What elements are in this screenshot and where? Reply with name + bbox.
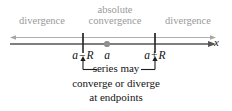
region-label-divergence-right-text: divergence bbox=[165, 15, 211, 26]
region-label-absolute-convergence-line2: convergence bbox=[76, 15, 154, 26]
callout-right-arrowhead-up-icon bbox=[152, 56, 157, 61]
caption-line-1: series may bbox=[66, 62, 166, 74]
region-label-divergence-right: divergence bbox=[154, 15, 222, 26]
center-point-dot bbox=[104, 41, 110, 47]
caption-line-3: at endpoints bbox=[0, 91, 232, 103]
axis-variable-label: x bbox=[214, 36, 219, 48]
region-label-absolute-convergence: absolute convergence bbox=[76, 4, 154, 26]
region-label-divergence-left-text: divergence bbox=[19, 15, 65, 26]
caption-line-2: converge or diverge bbox=[0, 77, 232, 89]
callout-left-arrowhead-up-icon bbox=[80, 56, 85, 61]
region-label-absolute-convergence-line1: absolute bbox=[76, 4, 154, 15]
convergence-interval-figure: divergence absolute convergence divergen… bbox=[0, 0, 232, 111]
region-label-divergence-left: divergence bbox=[8, 15, 76, 26]
